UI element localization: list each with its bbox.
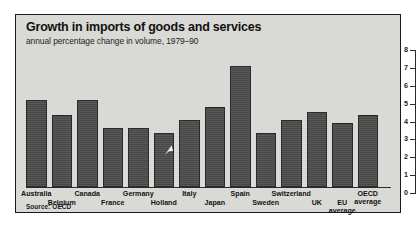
bar-series	[26, 53, 378, 187]
bar	[52, 115, 73, 187]
tick-label: 8	[404, 45, 408, 54]
chart-panel: Growth in imports of goods and services …	[15, 14, 401, 213]
tick-label: 1	[404, 170, 408, 179]
bar	[103, 128, 124, 187]
category-label-text: Germany	[123, 190, 154, 198]
y-axis: 876543210	[390, 45, 416, 193]
tick-mark	[410, 175, 416, 176]
tick-mark	[410, 157, 416, 158]
tick-mark	[410, 193, 416, 194]
category-label: Italy	[179, 189, 200, 215]
tick-mark	[410, 139, 416, 140]
source-note: Source: OECD	[26, 203, 71, 210]
category-label-text: Italy	[182, 190, 196, 198]
category-label: Japan	[205, 189, 226, 215]
tick-label: 6	[404, 81, 408, 90]
bar	[332, 123, 353, 187]
category-label: UK	[307, 189, 328, 215]
tick-label: 3	[404, 134, 408, 143]
bar	[358, 115, 379, 187]
bar	[307, 112, 328, 187]
category-label: EUaverage	[332, 189, 353, 215]
tick-mark	[410, 86, 416, 87]
tick-mark	[410, 50, 416, 51]
tick-mark	[410, 104, 416, 105]
category-label: Belgium	[52, 189, 73, 215]
tick-label: 5	[404, 99, 408, 108]
tick-mark	[410, 68, 416, 69]
category-label: Holland	[154, 189, 175, 215]
page-title: Growth in imports of goods and services	[26, 20, 261, 34]
category-label-text: UK	[312, 199, 322, 207]
category-label-text: Canada	[74, 190, 100, 198]
bar	[230, 66, 251, 187]
category-label-text: OECDaverage	[354, 190, 381, 207]
tick-label: 0	[404, 188, 408, 197]
category-label-text: Sweden	[252, 199, 279, 207]
bar	[256, 133, 277, 187]
category-label-text: Japan	[204, 199, 225, 207]
bar	[77, 100, 98, 187]
tick-label: 4	[404, 117, 408, 126]
category-label-text: Switzerland	[272, 190, 311, 198]
tick-mark	[410, 122, 416, 123]
category-label-text: Australia	[21, 190, 51, 198]
category-label: Australia	[26, 189, 47, 215]
category-label-text: EUaverage	[329, 199, 356, 216]
bar	[26, 100, 47, 187]
category-label: France	[103, 189, 124, 215]
bar	[281, 120, 302, 187]
category-label-text: France	[101, 199, 124, 207]
plot-area	[26, 53, 378, 187]
x-axis-baseline	[26, 187, 391, 188]
category-label: Germany	[128, 189, 149, 215]
chart-subtitle: annual percentage change in volume, 1979…	[26, 36, 198, 46]
bar	[205, 107, 226, 187]
category-label-text: Spain	[231, 190, 250, 198]
bar	[154, 133, 175, 187]
bar	[179, 120, 200, 187]
bar	[128, 128, 149, 187]
category-label: OECDaverage	[358, 189, 379, 215]
category-label: Switzerland	[281, 189, 302, 215]
category-label: Spain	[230, 189, 251, 215]
tick-label: 7	[404, 63, 408, 72]
category-label-text: Holland	[151, 199, 177, 207]
category-labels: AustraliaBelgiumCanadaFranceGermanyHolla…	[26, 189, 378, 215]
tick-label: 2	[404, 152, 408, 161]
category-label: Canada	[77, 189, 98, 215]
